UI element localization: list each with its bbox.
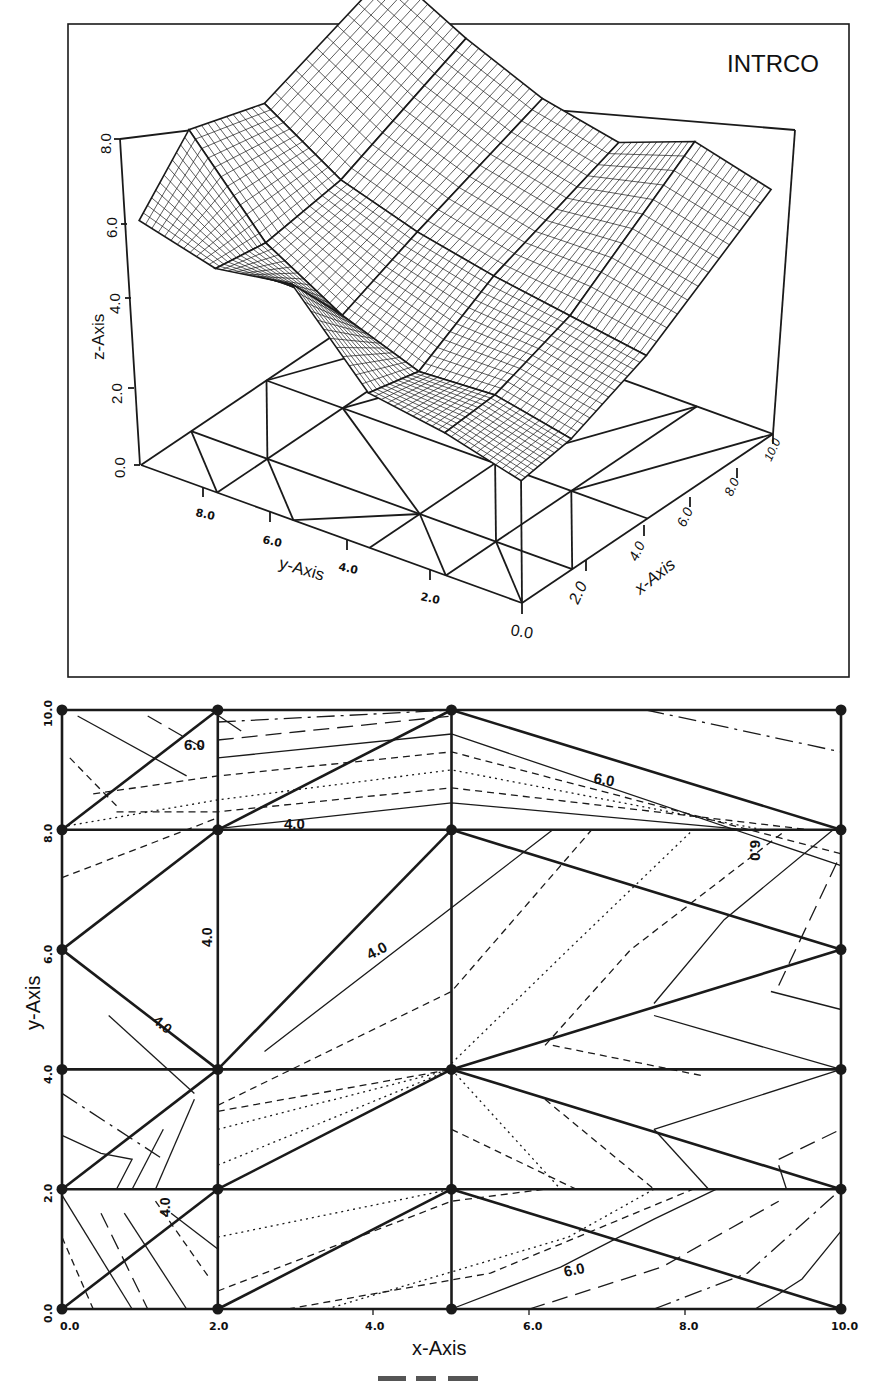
triangulation-edges <box>62 710 841 1309</box>
figure: INTRCO 0.0 2.0 4.0 6.0 8.0 z-Axis <box>0 0 884 1381</box>
x3d-tick-8: 8.0 <box>721 475 743 498</box>
node-marker <box>212 705 223 716</box>
y-tick: 6.0 <box>42 944 55 964</box>
contour-label: 6.0 <box>747 840 764 861</box>
node-marker <box>212 824 223 835</box>
y-tick: 0.0 <box>42 1303 55 1323</box>
surface-plot-panel: INTRCO 0.0 2.0 4.0 6.0 8.0 z-Axis <box>68 0 849 677</box>
node-marker <box>57 1304 68 1315</box>
y-tick: 10.0 <box>42 700 55 727</box>
contour-label: 4.0 <box>199 927 215 947</box>
origin-label: 0.0 <box>509 621 534 642</box>
surface-mesh <box>139 0 771 603</box>
z-axis: 0.0 2.0 4.0 6.0 8.0 z-Axis <box>89 133 140 478</box>
node-marker <box>836 705 847 716</box>
node-marker <box>212 1304 223 1315</box>
node-marker <box>446 705 457 716</box>
node-marker <box>57 944 68 955</box>
y3d-axis-label: y-Axis <box>277 554 327 585</box>
x3d-tick-2: 2.0 <box>565 579 590 607</box>
node-marker <box>836 1184 847 1195</box>
figure-caption-cutoff <box>378 1376 478 1381</box>
node-marker <box>212 1064 223 1075</box>
node-marker <box>446 1064 457 1075</box>
z-tick-8: 8.0 <box>97 133 114 154</box>
y-axis-3d: 8.0 6.0 4.0 2.0 y-Axis 0.0 <box>194 487 534 642</box>
node-marker <box>836 1304 847 1315</box>
node-marker <box>836 1064 847 1075</box>
z-tick-6: 6.0 <box>103 217 120 238</box>
contour-label: 4.0 <box>284 815 305 832</box>
y3d-tick-8: 8.0 <box>194 506 216 523</box>
y3d-tick-4: 4.0 <box>337 560 359 577</box>
x3d-tick-4: 4.0 <box>625 539 648 564</box>
contour-x-axis: 0.0 2.0 4.0 6.0 8.0 10.0 x-Axis <box>60 1309 858 1359</box>
x-tick: 2.0 <box>209 1320 229 1333</box>
x-tick: 8.0 <box>679 1320 699 1333</box>
y3d-tick-6: 6.0 <box>261 533 283 550</box>
node-marker <box>57 705 68 716</box>
x-tick: 6.0 <box>523 1320 543 1333</box>
z-tick-2: 2.0 <box>108 383 125 404</box>
node-marker <box>446 1304 457 1315</box>
z-tick-4: 4.0 <box>106 293 123 314</box>
contour-label: 6.0 <box>184 736 205 753</box>
contour-label: 6.0 <box>592 769 615 789</box>
y-tick: 4.0 <box>42 1064 55 1084</box>
x-tick: 4.0 <box>365 1320 385 1333</box>
surface-plot-title: INTRCO <box>727 50 819 77</box>
node-marker <box>57 1184 68 1195</box>
x-tick: 10.0 <box>831 1320 858 1333</box>
contour-plot-panel: 6.0 4.0 6.0 6.0 4.0 4.0 4.0 4.0 6.0 0.0 … <box>22 700 858 1359</box>
contour-x-axis-label: x-Axis <box>412 1337 466 1359</box>
contour-label: 4.0 <box>157 1197 173 1217</box>
y3d-tick-2: 2.0 <box>419 590 441 607</box>
node-marker <box>57 824 68 835</box>
node-marker <box>446 1184 457 1195</box>
node-marker <box>446 824 457 835</box>
x3d-tick-6: 6.0 <box>673 505 696 530</box>
node-marker <box>836 944 847 955</box>
contour-y-axis-label: y-Axis <box>22 976 44 1030</box>
z-tick-0: 0.0 <box>111 457 128 478</box>
z-axis-label: z-Axis <box>89 314 108 360</box>
x-axis-3d: 2.0 4.0 6.0 8.0 10.0 x-Axis <box>565 434 784 607</box>
node-marker <box>836 824 847 835</box>
y-tick: 8.0 <box>42 823 55 843</box>
y-tick: 2.0 <box>42 1183 55 1203</box>
contour-y-axis: 0.0 2.0 4.0 6.0 8.0 10.0 y-Axis <box>22 700 55 1323</box>
node-marker <box>57 1064 68 1075</box>
contour-label: 6.0 <box>562 1259 586 1280</box>
x-tick: 0.0 <box>60 1320 80 1333</box>
node-marker <box>212 1184 223 1195</box>
